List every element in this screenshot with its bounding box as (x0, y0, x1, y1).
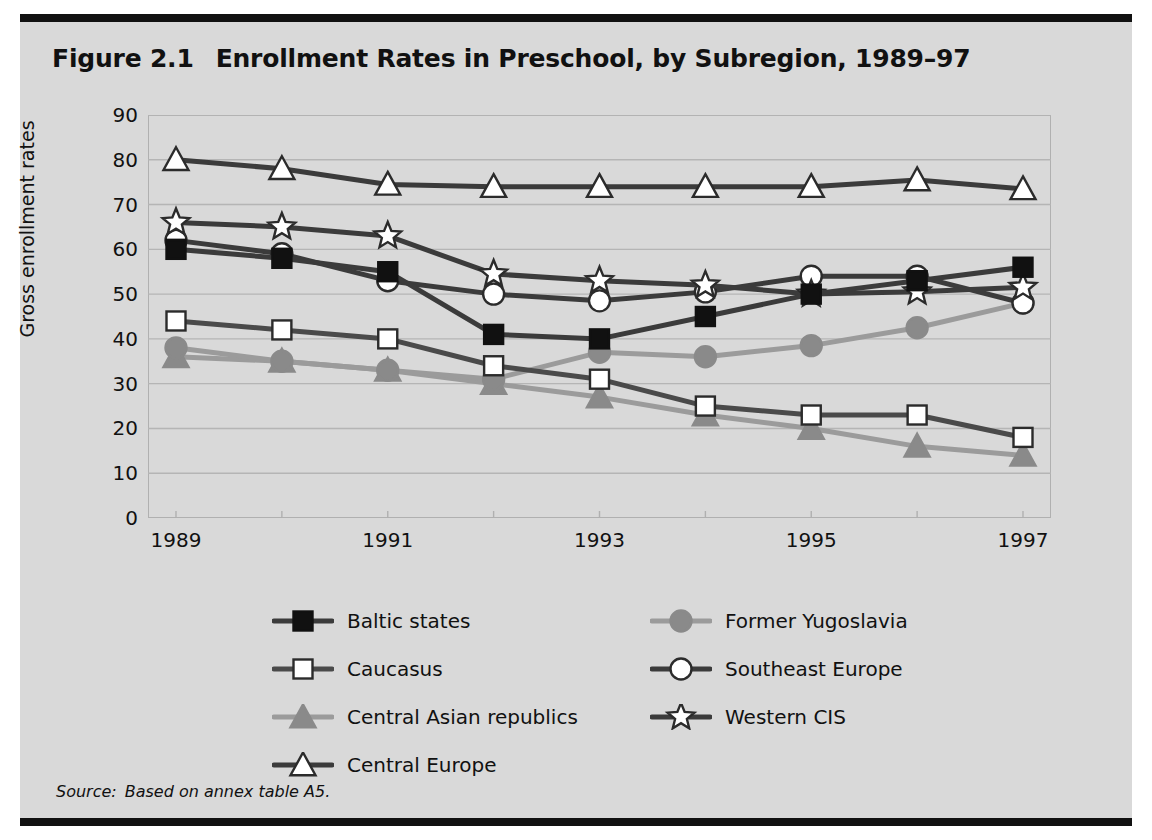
top-rule (20, 14, 1132, 22)
y-tick-label: 80 (113, 148, 138, 172)
y-tick-label: 10 (113, 461, 138, 485)
data-point-marker (802, 406, 821, 425)
legend-item[interactable]: Caucasus (272, 656, 443, 682)
legend-marker-filled-triangle (272, 704, 334, 730)
bottom-rule (20, 818, 1132, 826)
y-tick-label: 40 (113, 327, 138, 351)
chart-svg (148, 115, 1051, 518)
chart-legend: Baltic statesCaucasusCentral Asian repub… (272, 608, 1032, 768)
data-point-marker (378, 262, 397, 281)
plot-wrapper (148, 115, 1051, 518)
data-point-marker (668, 704, 695, 728)
data-point-marker (801, 335, 822, 356)
y-tick-label: 50 (113, 282, 138, 306)
legend-item[interactable]: Southeast Europe (650, 656, 903, 682)
data-point-marker (1014, 258, 1033, 277)
y-tick-label: 0 (125, 506, 138, 530)
series-central-europe (164, 147, 1036, 199)
legend-item[interactable]: Former Yugoslavia (650, 608, 908, 634)
x-axis-ticks: 19891991199319951997 (148, 528, 1051, 558)
data-point-marker (294, 612, 313, 631)
data-point-marker (695, 346, 716, 367)
x-tick-label: 1989 (151, 528, 202, 552)
figure-title: Figure 2.1Enrollment Rates in Preschool,… (52, 44, 971, 73)
y-tick-label: 30 (113, 372, 138, 396)
legend-item[interactable]: Central Asian republics (272, 704, 578, 730)
x-tick-label: 1991 (362, 528, 413, 552)
data-point-marker (269, 213, 296, 238)
data-point-marker (696, 397, 715, 416)
data-point-marker (590, 329, 609, 348)
data-point-marker (378, 329, 397, 348)
data-point-marker (271, 351, 292, 372)
data-point-marker (272, 320, 291, 339)
data-point-marker (374, 222, 401, 247)
data-point-marker (167, 311, 186, 330)
legend-item[interactable]: Baltic states (272, 608, 470, 634)
figure-number: Figure 2.1 (52, 44, 194, 73)
legend-label: Central Asian republics (347, 705, 578, 729)
source-label: Source: (56, 782, 117, 801)
legend-marker-open-star (650, 704, 712, 730)
data-point-marker (586, 267, 613, 292)
legend-label: Caucasus (347, 657, 443, 681)
x-tick-label: 1995 (786, 528, 837, 552)
y-tick-label: 90 (113, 103, 138, 127)
data-point-marker (163, 208, 190, 233)
data-point-marker (480, 260, 507, 285)
data-point-marker (294, 660, 313, 679)
x-tick-label: 1993 (574, 528, 625, 552)
figure-page: Figure 2.1Enrollment Rates in Preschool,… (0, 0, 1152, 840)
y-axis-title: Gross enrollment rates (16, 64, 38, 394)
legend-label: Western CIS (725, 705, 846, 729)
data-point-marker (589, 290, 610, 311)
data-point-marker (908, 271, 927, 290)
legend-label: Southeast Europe (725, 657, 903, 681)
legend-label: Central Europe (347, 753, 497, 777)
data-point-marker (908, 406, 927, 425)
legend-marker-filled-circle (650, 608, 712, 634)
data-point-marker (590, 370, 609, 389)
figure-title-text: Enrollment Rates in Preschool, by Subreg… (216, 44, 971, 73)
data-point-marker (167, 240, 186, 259)
data-point-marker (696, 307, 715, 326)
y-tick-label: 70 (113, 193, 138, 217)
data-point-marker (272, 249, 291, 268)
x-tick-label: 1997 (998, 528, 1049, 552)
y-tick-label: 20 (113, 416, 138, 440)
data-point-marker (671, 611, 692, 632)
data-point-marker (802, 285, 821, 304)
legend-marker-open-square (272, 656, 334, 682)
data-point-marker (483, 284, 504, 305)
data-point-marker (484, 356, 503, 375)
data-point-marker (484, 325, 503, 344)
legend-marker-open-triangle (272, 752, 334, 778)
y-tick-label: 60 (113, 237, 138, 261)
legend-label: Former Yugoslavia (725, 609, 908, 633)
data-point-marker (166, 337, 187, 358)
source-note: Source:Based on annex table A5. (56, 782, 330, 801)
y-axis-ticks: 0102030405060708090 (78, 115, 138, 518)
legend-marker-open-circle (650, 656, 712, 682)
data-point-marker (671, 659, 692, 680)
legend-item[interactable]: Central Europe (272, 752, 497, 778)
source-text: Based on annex table A5. (125, 782, 331, 801)
legend-label: Baltic states (347, 609, 470, 633)
legend-marker-filled-square (272, 608, 334, 634)
data-point-marker (907, 317, 928, 338)
legend-item[interactable]: Western CIS (650, 704, 846, 730)
data-point-marker (1014, 428, 1033, 447)
data-point-marker (377, 360, 398, 381)
